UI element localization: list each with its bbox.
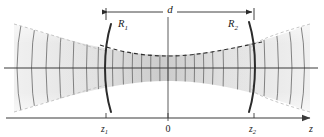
- label-z1: z1: [100, 124, 108, 135]
- figure-canvas: d R1 R2 z1 0 z2 z: [0, 0, 324, 137]
- gaussian-beam-figure: d R1 R2 z1 0 z2 z: [0, 0, 324, 137]
- label-d: d: [167, 3, 173, 15]
- z-axis-group: [6, 113, 310, 118]
- label-z2: z2: [248, 124, 257, 135]
- label-R2: R2: [227, 18, 238, 32]
- label-R1: R1: [117, 18, 128, 32]
- label-z2-subscript: 2: [253, 128, 257, 135]
- label-R2-subscript: 2: [234, 24, 238, 32]
- label-z-axis: z: [308, 123, 313, 134]
- label-origin: 0: [166, 123, 171, 134]
- label-z1-subscript: 1: [105, 128, 108, 135]
- label-R1-subscript: 1: [124, 24, 128, 32]
